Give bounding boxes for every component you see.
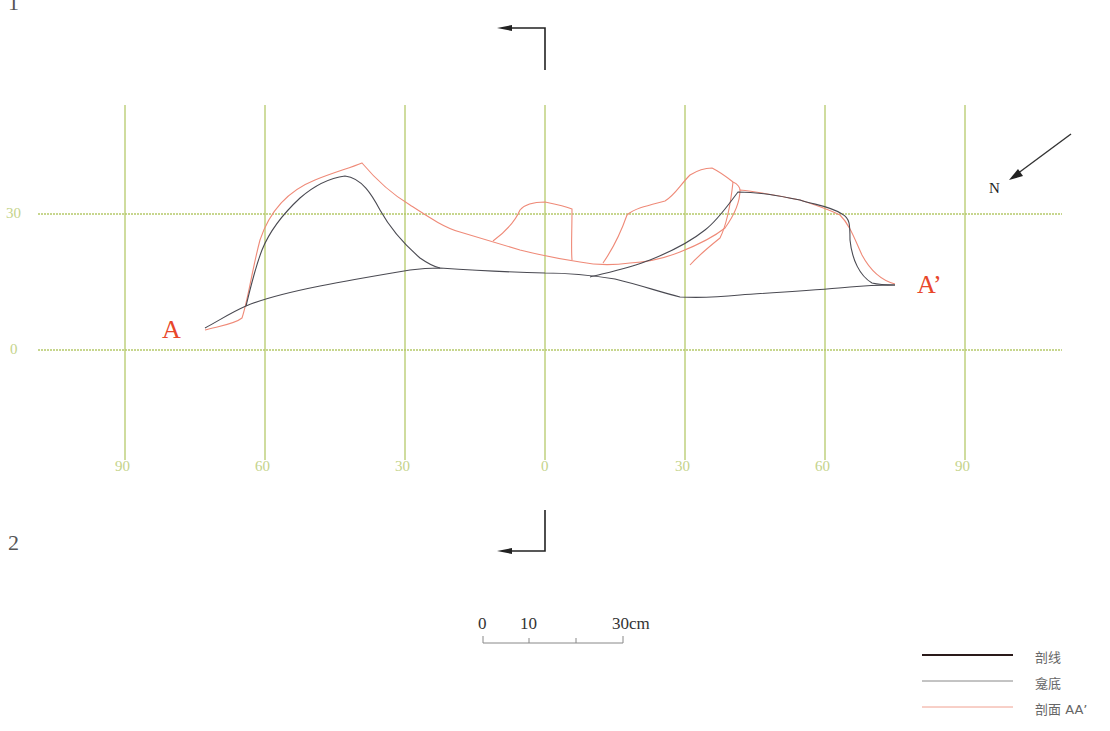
legend-label-niche-floor: 龛底	[1035, 673, 1061, 692]
section-aa-profile	[205, 163, 895, 330]
legend-label-section-line: 剖线	[1035, 647, 1061, 666]
section-marker-top	[497, 25, 545, 70]
scale-label-30cm: 30cm	[612, 614, 650, 634]
x-axis-label-90-left: 90	[115, 458, 130, 475]
section-marker-bottom	[497, 510, 545, 554]
niche-outline	[205, 176, 895, 328]
x-axis-label-30-right: 30	[675, 458, 690, 475]
scale-label-0: 0	[478, 614, 487, 634]
section-start-label: A	[162, 315, 181, 345]
legend-swatches	[922, 655, 1013, 707]
legend-label-section-aa: 剖面 AA’	[1035, 699, 1087, 718]
x-axis-label-0: 0	[541, 458, 549, 475]
x-axis-label-30-left: 30	[395, 458, 410, 475]
x-axis-label-60-left: 60	[255, 458, 270, 475]
scale-bar	[483, 636, 623, 643]
diagram-canvas	[0, 0, 1110, 731]
y-axis-label-0: 0	[10, 341, 18, 358]
grid	[38, 105, 1062, 460]
y-axis-label-30: 30	[6, 205, 21, 222]
scale-label-10: 10	[520, 614, 537, 634]
north-arrow-icon	[1009, 134, 1071, 180]
x-axis-label-60-right: 60	[815, 458, 830, 475]
x-axis-label-90-right: 90	[955, 458, 970, 475]
section-end-label: A’	[917, 270, 942, 300]
sheet-number-bottom: 2	[8, 530, 19, 556]
sheet-number-top: 1	[8, 0, 19, 16]
north-label: N	[989, 180, 1000, 197]
